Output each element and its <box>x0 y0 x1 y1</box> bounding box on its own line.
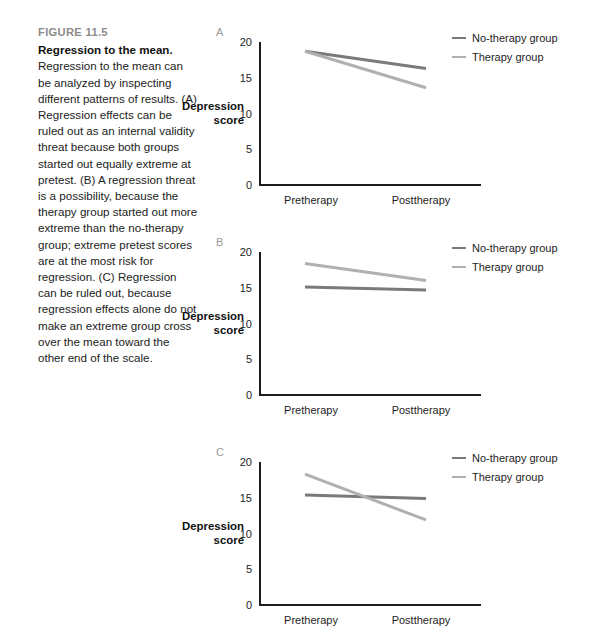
legend-swatch-no-therapy-icon <box>452 247 466 250</box>
legend-swatch-no-therapy-icon <box>452 457 466 460</box>
legend-swatch-therapy-icon <box>452 266 466 269</box>
data-line-no-therapy-group <box>305 287 426 290</box>
legend-c: No-therapy group Therapy group <box>452 450 558 488</box>
legend-swatch-no-therapy-icon <box>452 37 466 40</box>
legend-label-therapy: Therapy group <box>472 51 544 63</box>
legend-label-no-therapy: No-therapy group <box>472 452 558 464</box>
chart-panel-a: A Depression score 20 15 10 5 0 Prethera… <box>200 18 591 226</box>
legend-item-therapy-c: Therapy group <box>452 469 558 485</box>
data-line-therapy-group <box>305 263 426 280</box>
data-line-no-therapy-group <box>305 51 426 68</box>
chart-panel-b: B Depression score 20 15 10 5 0 Prethera… <box>200 228 591 436</box>
legend-b: No-therapy group Therapy group <box>452 240 558 278</box>
chart-panel-c: C Depression score 20 15 10 5 0 Prethera… <box>200 438 591 644</box>
legend-item-no-therapy-c: No-therapy group <box>452 450 558 466</box>
legend-item-no-therapy-b: No-therapy group <box>452 240 558 256</box>
legend-swatch-therapy-icon <box>452 56 466 59</box>
legend-label-no-therapy: No-therapy group <box>472 32 558 44</box>
legend-item-therapy-a: Therapy group <box>452 49 558 65</box>
legend-item-therapy-b: Therapy group <box>452 259 558 275</box>
legend-label-therapy: Therapy group <box>472 471 544 483</box>
figure-number: FIGURE 11.5 <box>38 24 198 40</box>
legend-label-therapy: Therapy group <box>472 261 544 273</box>
plot-area-a: Depression score 20 15 10 5 0 Pretherapy… <box>200 18 591 226</box>
data-line-therapy-group <box>305 51 426 87</box>
legend-a: No-therapy group Therapy group <box>452 30 558 68</box>
plot-area-c: Depression score 20 15 10 5 0 Pretherapy… <box>200 438 591 644</box>
legend-swatch-therapy-icon <box>452 476 466 479</box>
legend-label-no-therapy: No-therapy group <box>472 242 558 254</box>
plot-area-b: Depression score 20 15 10 5 0 Pretherapy… <box>200 228 591 436</box>
figure-page: FIGURE 11.5Regression to the mean. Regre… <box>0 0 591 644</box>
figure-title: Regression to the mean. <box>38 43 173 56</box>
legend-item-no-therapy-a: No-therapy group <box>452 30 558 46</box>
